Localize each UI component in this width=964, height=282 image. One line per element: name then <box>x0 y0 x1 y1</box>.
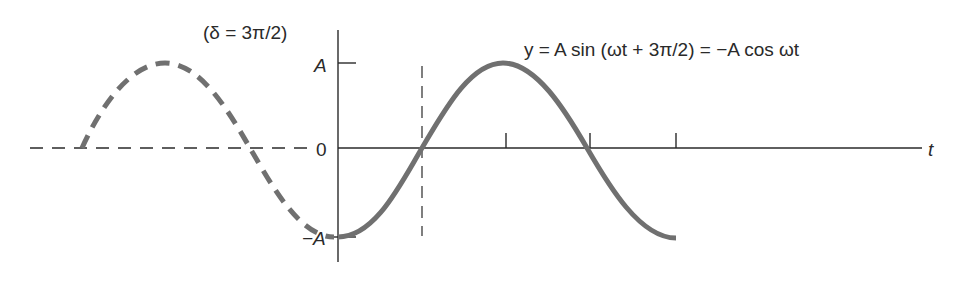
solid-curve <box>338 63 676 238</box>
t-axis-label: t <box>928 140 933 159</box>
phase-note: (δ = 3π/2) <box>203 23 287 42</box>
equation-label: y = A sin (ωt + 3π/2) = −A cos ωt <box>524 40 799 59</box>
phase-diagram <box>0 0 964 282</box>
dashed-curve <box>82 63 334 237</box>
y-tick-label-minus-A: −A <box>302 229 326 248</box>
y-tick-label-A: A <box>314 56 327 75</box>
y-tick-label-zero: 0 <box>316 140 327 159</box>
